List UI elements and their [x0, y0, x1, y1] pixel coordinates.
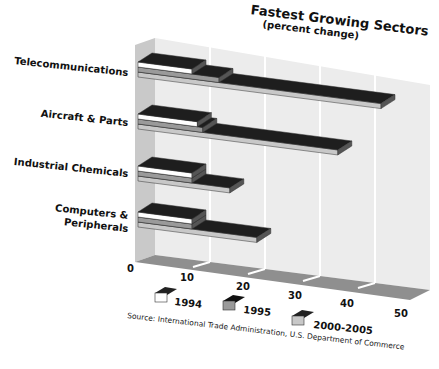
legend-swatch-1994 — [155, 293, 167, 302]
x-tick-20: 20 — [236, 281, 250, 292]
chart-canvas: Fastest Growing Sectors (percent change)… — [0, 0, 439, 369]
legend-swatch-1995 — [223, 301, 235, 310]
category-label-aircraft: Aircraft & Parts — [40, 108, 129, 128]
category-label-telecommunications: Telecommunications — [14, 55, 129, 78]
legend-1995: 1995 — [223, 295, 272, 318]
x-tick-40: 40 — [340, 298, 354, 309]
x-tick-50: 50 — [394, 308, 408, 319]
legend-swatch-2000-2005 — [292, 316, 304, 325]
x-tick-10: 10 — [180, 272, 194, 283]
svg-text:1994: 1994 — [174, 296, 203, 310]
x-tick-30: 30 — [288, 290, 302, 301]
legend-1994: 1994 — [155, 287, 203, 310]
svg-text:1995: 1995 — [243, 304, 272, 318]
x-tick-0: 0 — [127, 263, 134, 274]
category-label-industrial-chemicals: Industrial Chemicals — [13, 156, 129, 179]
